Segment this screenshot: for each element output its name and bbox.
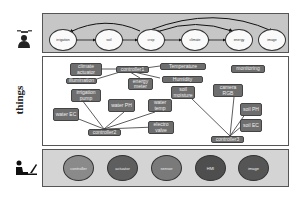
node-crop: crop (137, 29, 165, 51)
box-soil-ph: soil PH (240, 103, 262, 116)
node-image: image (258, 29, 286, 51)
box-water-temp: water temp (148, 99, 172, 112)
box-controller1: controller1 (116, 66, 149, 73)
box-controller2: controller2 (88, 129, 121, 136)
box-water-ph: water PH (108, 99, 135, 112)
circle-controller: controller (63, 155, 94, 181)
node-climate: climate (181, 29, 209, 51)
box-soil-moisture: soil moisture (171, 86, 195, 99)
circle-actuator: actuator (107, 155, 138, 181)
box-climate-actuator: climate actuator (70, 63, 102, 76)
box-illumination: illumination (66, 78, 97, 84)
box-camera-rgb: camera RGB (213, 84, 243, 97)
circle-sensor: sensor (151, 155, 182, 181)
box-irrigation-pump: irrigation pump (71, 89, 101, 102)
box-energy-meter: energy meter (128, 78, 153, 90)
box-controller3: controller3 (211, 136, 244, 143)
box-water-ec: water EC (53, 108, 79, 121)
node-irrigation: irrigation (49, 29, 77, 51)
box-temperature: Temperature (160, 63, 206, 70)
box-monitoring: monitoring (231, 65, 265, 73)
person-at-computer-icon (14, 160, 38, 176)
things-label: things (13, 86, 25, 115)
node-energy: energy (225, 29, 253, 51)
node-soil: soil (95, 29, 123, 51)
farmer-with-drone-icon (14, 29, 36, 49)
circle-hmi: HMI (195, 155, 226, 181)
domain-layer (42, 13, 289, 53)
circle-image: image (238, 155, 269, 181)
box-soil-ec: soil EC (240, 119, 262, 132)
box-humidity: Humidity (162, 76, 203, 83)
box-electro-valve: electro valve (148, 121, 174, 134)
